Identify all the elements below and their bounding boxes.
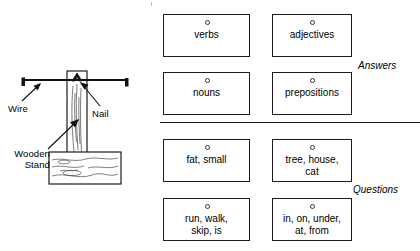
card-verbs[interactable]: verbs [163, 14, 250, 57]
card-label: adjectives [273, 29, 351, 41]
card-label: verbs [164, 29, 249, 41]
section-divider [160, 122, 420, 123]
punch-hole-icon [205, 204, 210, 209]
card-adjective-examples[interactable]: fat, small [163, 139, 250, 182]
card-label: tree, house, cat [273, 154, 351, 178]
questions-section-label: Questions [353, 184, 398, 195]
card-verb-examples[interactable]: run, walk, skip, is [163, 198, 250, 241]
apparatus-drawing [0, 0, 150, 251]
card-label: nouns [164, 87, 249, 99]
punch-hole-icon [205, 20, 210, 25]
card-label: run, walk, skip, is [164, 213, 249, 237]
cards-panel: verbs adjectives nouns prepositions Answ… [150, 0, 420, 251]
card-label: prepositions [273, 87, 351, 99]
wire-hook-right [125, 78, 129, 87]
punch-hole-icon [310, 78, 315, 83]
wire-leader-line [22, 84, 40, 101]
punch-hole-icon [205, 145, 210, 150]
punch-hole-icon [310, 20, 315, 25]
card-noun-examples[interactable]: tree, house, cat [272, 139, 352, 182]
punch-hole-icon [205, 78, 210, 83]
card-label: in, on, under, at, from [273, 213, 351, 237]
wooden-base [49, 152, 121, 184]
card-prepositions[interactable]: prepositions [272, 72, 352, 115]
nail-label: Nail [92, 108, 109, 119]
card-label: fat, small [164, 154, 249, 166]
apparatus-diagram: Wire Nail Wooden Stand [0, 0, 150, 251]
wire-label: Wire [8, 103, 28, 114]
card-adjectives[interactable]: adjectives [272, 14, 352, 57]
wire-hook-left [22, 78, 26, 87]
wooden-stand-label: Wooden Stand [2, 148, 50, 170]
punch-hole-icon [310, 145, 315, 150]
answers-section-label: Answers [358, 60, 396, 71]
punch-hole-icon [310, 204, 315, 209]
card-nouns[interactable]: nouns [163, 72, 250, 115]
scan-speck [151, 2, 152, 6]
card-preposition-examples[interactable]: in, on, under, at, from [272, 198, 352, 241]
worksheet-figure: Wire Nail Wooden Stand verbs adjectives … [0, 0, 420, 251]
